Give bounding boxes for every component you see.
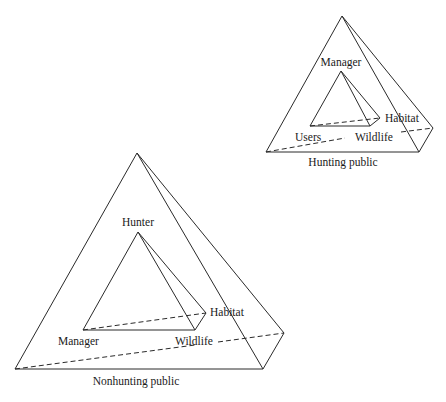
label-users: Users: [295, 131, 322, 143]
label-habitat: Habitat: [385, 112, 420, 124]
label-nonhunting-public: Nonhunting public: [93, 375, 180, 388]
label-manager: Manager: [58, 335, 99, 348]
diagram-canvas: Manager Habitat Users Wildlife Hunting p…: [0, 0, 446, 402]
outer-pyramid: [266, 16, 433, 152]
inner-pyramid: [310, 71, 380, 126]
label-manager: Manager: [321, 56, 362, 69]
label-wildlife: Wildlife: [175, 335, 213, 347]
label-hunter: Hunter: [122, 216, 154, 228]
hunting-public-pyramid: Manager Habitat Users Wildlife Hunting p…: [266, 16, 433, 169]
inner-pyramid: [83, 232, 206, 330]
outer-pyramid: [15, 153, 284, 369]
label-hunting-public: Hunting public: [308, 156, 377, 169]
label-habitat: Habitat: [210, 306, 245, 318]
label-wildlife: Wildlife: [355, 131, 393, 143]
nonhunting-public-pyramid: Hunter Habitat Manager Wildlife Nonhunti…: [15, 153, 284, 388]
